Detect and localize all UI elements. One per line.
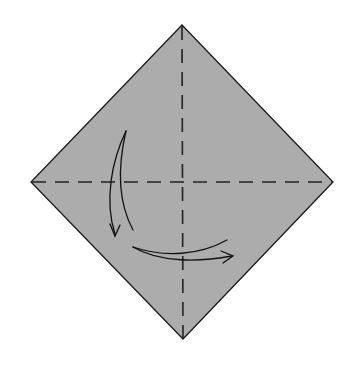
origami-diagram [0, 0, 355, 365]
